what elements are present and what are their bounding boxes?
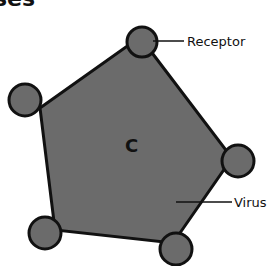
receptor-right [222, 145, 254, 177]
center-label: C [125, 135, 138, 156]
virus-label: Virus [234, 195, 267, 210]
receptor-top [127, 27, 157, 57]
virus-diagram: Receptor Virus C [0, 0, 268, 266]
receptor-left [9, 84, 41, 116]
receptor-label: Receptor [187, 34, 246, 49]
receptor-bottom-left [29, 217, 61, 249]
receptor-bottom-right [160, 233, 192, 265]
